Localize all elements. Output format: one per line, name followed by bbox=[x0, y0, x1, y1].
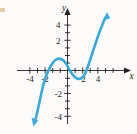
y-tick-label-minus2: -2 bbox=[55, 89, 63, 99]
x-axis bbox=[17, 67, 131, 73]
y-tick-label-4: 4 bbox=[56, 20, 61, 30]
y-tick-label-minus4: -4 bbox=[55, 112, 63, 122]
y-tick-label-2: 2 bbox=[56, 36, 61, 46]
cubic-curve-group bbox=[32, 12, 111, 126]
x-tick-label-4: 4 bbox=[96, 74, 101, 84]
graph-figure: -4 -2 2 4 4 2 -2 -4 x y bbox=[0, 0, 137, 134]
y-axis-label: y bbox=[61, 3, 67, 13]
x-axis-label: x bbox=[129, 71, 135, 81]
x-tick-label-minus4: -4 bbox=[26, 74, 34, 84]
curve-end-arrowhead bbox=[103, 12, 110, 20]
cartesian-plot: -4 -2 2 4 4 2 -2 -4 x y bbox=[0, 0, 137, 134]
